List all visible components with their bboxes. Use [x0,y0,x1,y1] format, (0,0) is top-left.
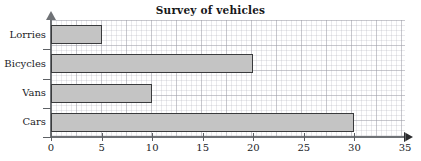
x-axis-tick [203,133,204,141]
bar-bicycles [51,54,253,73]
x-axis-tick-label: 5 [87,142,117,153]
x-axis-tick-label: 0 [36,142,66,153]
x-axis-tick-label: 15 [188,142,218,153]
chart-title: Survey of vehicles [0,4,421,16]
x-axis-tick [152,133,153,141]
x-axis-tick [253,133,254,141]
x-axis-tick-label: 30 [339,142,369,153]
x-axis-tick-label: 35 [390,142,420,153]
category-label-bicycles: Bicycles [0,58,46,69]
x-axis-tick-label: 10 [137,142,167,153]
x-axis-tick-label: 25 [289,142,319,153]
y-axis-arrow-icon [46,11,56,20]
bar-chart: Survey of vehicles 05101520253035 Lorrie… [0,0,421,161]
bar-lorries [51,25,102,44]
category-label-lorries: Lorries [0,29,46,40]
bar-cars [51,113,354,132]
x-axis-tick [405,133,406,141]
y-axis-tick [43,49,51,50]
x-axis-tick [354,133,355,141]
category-label-cars: Cars [0,116,46,127]
x-axis-line [50,136,405,138]
y-axis-tick [43,108,51,109]
x-axis-tick [304,133,305,141]
x-axis-tick-label: 20 [238,142,268,153]
x-axis-tick [51,133,52,141]
x-axis-tick [102,133,103,141]
y-axis-tick [43,79,51,80]
y-axis-tick [43,137,51,138]
bar-vans [51,84,152,103]
category-label-vans: Vans [0,87,46,98]
